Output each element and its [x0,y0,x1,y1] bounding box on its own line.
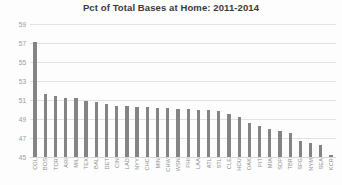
x-label-slot: PIT [254,158,264,185]
bar [54,96,57,157]
bar-series [30,24,336,157]
x-label-slot: KCR [326,158,336,185]
bar [115,106,118,157]
bar [166,108,169,157]
bar [125,106,128,157]
x-axis-tick-label: ARI [63,158,69,168]
x-label-slot: PHI [183,158,193,185]
bar [176,109,179,157]
x-axis-tick-label: TOR [53,158,59,170]
bar-slot [305,24,315,157]
bar-slot [152,24,162,157]
bar-slot [285,24,295,157]
bar-slot [193,24,203,157]
bar [268,129,271,157]
x-axis-tick-label: PHI [185,158,191,168]
x-label-slot: MIA [265,158,275,185]
bar [248,123,251,157]
bar [217,111,220,157]
bar-slot [265,24,275,157]
bar-slot [275,24,285,157]
x-label-slot: BOS [40,158,50,185]
x-axis-tick-label: DET [104,158,110,170]
x-axis-tick-label: HOU [236,158,242,171]
bar [258,126,261,157]
x-axis-tick-label: CIN [114,158,120,168]
x-axis-tick-label: LAA [195,158,201,169]
x-label-slot: SEA [316,158,326,185]
bar [238,117,241,157]
bar-slot [40,24,50,157]
bar [105,104,108,157]
x-label-slot: SDP [275,158,285,185]
y-axis-tick-label: 55 [4,59,26,66]
x-axis-tick-label: TEX [83,158,89,169]
bar [84,101,87,157]
y-axis-tick-label: 53 [4,78,26,85]
bar-slot [91,24,101,157]
x-label-slot: NYM [305,158,315,185]
x-axis-tick-label: SFG [297,158,303,170]
bar-slot [183,24,193,157]
x-axis-tick-label: CHW [165,158,171,172]
x-label-slot: ARI [61,158,71,185]
bar [278,131,281,157]
bar-slot [214,24,224,157]
x-axis-tick-label: SDP [277,158,283,170]
bar-slot [61,24,71,157]
bar [156,108,159,157]
bar-slot [224,24,234,157]
bar [309,143,312,157]
x-label-slot: CHW [163,158,173,185]
chart-title: Pct of Total Bases at Home: 2011-2014 [0,2,342,13]
x-label-slot: TEX [81,158,91,185]
x-axis-tick-label: MIL [73,158,79,168]
bar-slot [295,24,305,157]
bar [135,107,138,157]
y-axis-tick-label: 47 [4,135,26,142]
bar [74,98,77,157]
bar [289,133,292,157]
y-axis-tick-label: 59 [4,21,26,28]
bar-chart: Pct of Total Bases at Home: 2011-2014 59… [0,0,342,185]
bar [207,110,210,158]
x-label-slot: WSN [173,158,183,185]
x-axis-tick-label: BAL [93,158,99,169]
bar [146,107,149,157]
x-axis-labels: COLBOSTORARIMILTEXBALDETCINLADNYYCHCMINC… [30,158,336,185]
bar-slot [101,24,111,157]
x-label-slot: HOU [234,158,244,185]
bar-slot [122,24,132,157]
bar-slot [234,24,244,157]
bar [319,145,322,157]
x-label-slot: CIN [112,158,122,185]
x-label-slot: STL [214,158,224,185]
x-label-slot: MIN [152,158,162,185]
x-label-slot: CLE [224,158,234,185]
bar-slot [316,24,326,157]
x-axis-tick-label: COL [32,158,38,170]
bar-slot [81,24,91,157]
bar-slot [254,24,264,157]
y-axis-tick-label: 45 [4,154,26,161]
x-label-slot: COL [30,158,40,185]
x-axis-tick-label: ATL [206,158,212,168]
x-label-slot: LAD [122,158,132,185]
y-axis-tick-label: 51 [4,97,26,104]
bar [299,141,302,157]
bar-slot [163,24,173,157]
x-axis-tick-label: OAK [246,158,252,170]
x-axis-tick-label: KCR [328,158,334,170]
bar-slot [326,24,336,157]
x-axis-tick-label: WSN [175,158,181,171]
x-axis-tick-label: BOS [42,158,48,170]
x-label-slot: SFG [295,158,305,185]
bar-slot [203,24,213,157]
y-axis-tick-label: 49 [4,116,26,123]
bar-slot [132,24,142,157]
bar-slot [112,24,122,157]
bar-slot [71,24,81,157]
x-axis-tick-label: MIN [155,158,161,169]
x-label-slot: DET [101,158,111,185]
bar-slot [142,24,152,157]
